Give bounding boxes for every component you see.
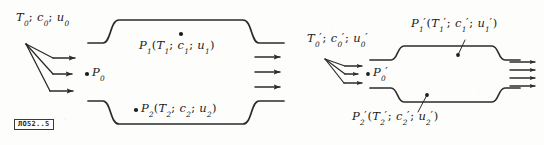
left-u2: u bbox=[199, 101, 207, 115]
right-lower-close-paren: ) bbox=[434, 109, 439, 123]
left-lower-state-label: P2(T2; c2; u2) bbox=[141, 103, 217, 115]
right-inlet-fan-spines bbox=[325, 59, 345, 83]
left-P2: P bbox=[141, 101, 149, 115]
left-P1-sub: 1 bbox=[147, 47, 152, 56]
left-inlet-point-label: P0 bbox=[92, 67, 105, 79]
right-inlet-u: u bbox=[353, 31, 361, 45]
left-u1: u bbox=[197, 38, 205, 52]
left-upper-close-paren: ) bbox=[210, 38, 215, 52]
right-u2-prime: ′ bbox=[430, 109, 433, 122]
right-lower-sep-1: ; bbox=[388, 109, 392, 123]
right-inlet-u-prime: ′ bbox=[365, 31, 368, 44]
right-duct-walls bbox=[370, 46, 520, 102]
left-inlet-T-sub: 0 bbox=[24, 19, 29, 28]
right-inlet-sep-1: ; bbox=[322, 31, 326, 45]
left-upper-state-label: P1(T1; c1; u1) bbox=[139, 40, 215, 52]
right-inlet-T: T bbox=[307, 31, 315, 45]
left-lower-close-paren: ) bbox=[212, 101, 217, 115]
right-P2-prime: ′ bbox=[364, 109, 367, 122]
right-duct-lower-wall bbox=[370, 88, 520, 102]
right-P0: P bbox=[373, 65, 381, 79]
left-c2-sub: 2 bbox=[186, 110, 191, 119]
right-outlet-arrows bbox=[510, 62, 535, 86]
right-c1-prime: ′ bbox=[466, 16, 469, 29]
right-lower-state-label: P2′(T2′; c2′; u2′) bbox=[352, 111, 438, 123]
right-leader-P1 bbox=[458, 40, 465, 55]
left-inlet-T: T bbox=[16, 10, 24, 24]
left-inlet-sep-1: ; bbox=[29, 10, 33, 24]
left-c1-sub: 1 bbox=[184, 47, 189, 56]
figure-caption-plate: ЛО52..5 bbox=[14, 119, 54, 130]
left-u1-sub: 1 bbox=[205, 47, 210, 56]
right-T1: T bbox=[431, 16, 439, 30]
right-u1-prime: ′ bbox=[489, 16, 492, 29]
left-lower-sep-2: ; bbox=[191, 101, 195, 115]
left-P1: P bbox=[139, 38, 147, 52]
right-u2: u bbox=[418, 109, 426, 123]
right-c2-prime: ′ bbox=[407, 109, 410, 122]
right-P0-prime: ′ bbox=[385, 65, 388, 78]
right-c1: c bbox=[455, 16, 462, 30]
right-point-P1-dot bbox=[456, 53, 460, 57]
right-upper-sep-1: ; bbox=[447, 16, 451, 30]
left-inlet-sep-2: ; bbox=[49, 10, 53, 24]
right-inlet-T-prime: ′ bbox=[319, 31, 322, 44]
left-outlet-arrows bbox=[255, 57, 280, 87]
left-inlet-fan-spines bbox=[26, 44, 53, 91]
right-duct-upper-wall bbox=[370, 46, 520, 60]
right-point-P0-dot bbox=[366, 72, 370, 76]
left-inlet-state-label: T0; c0; u0 bbox=[16, 12, 69, 24]
left-upper-sep-1: ; bbox=[169, 38, 173, 52]
figure-screenshot: T0; c0; u0 P0 P1(T1; c1; u1) P2(T2; c2; … bbox=[0, 0, 544, 145]
right-inlet-point-label: P0′ bbox=[373, 67, 389, 79]
left-point-P0-dot bbox=[85, 72, 89, 76]
right-lower-sep-2: ; bbox=[410, 109, 414, 123]
right-T2-prime: ′ bbox=[385, 109, 388, 122]
left-P2-sub: 2 bbox=[149, 110, 154, 119]
left-T1-sub: 1 bbox=[164, 47, 169, 56]
left-upper-sep-2: ; bbox=[189, 38, 193, 52]
right-T1-prime: ′ bbox=[444, 16, 447, 29]
right-T2: T bbox=[372, 109, 380, 123]
left-inlet-u-sub: 0 bbox=[64, 19, 69, 28]
left-P0-sub: 0 bbox=[100, 74, 105, 83]
left-inlet-c: c bbox=[37, 10, 44, 24]
right-inlet-state-label: T0′; c0′; u0′ bbox=[307, 33, 368, 45]
left-inlet-c-sub: 0 bbox=[44, 19, 49, 28]
left-point-P1-dot bbox=[179, 32, 183, 36]
right-upper-state-label: P1′(T1′; c1′; u1′) bbox=[411, 18, 497, 30]
right-upper-close-paren: ) bbox=[493, 16, 498, 30]
right-point-P2-dot bbox=[425, 93, 429, 97]
left-point-P2-dot bbox=[134, 108, 138, 112]
right-P2: P bbox=[352, 109, 360, 123]
right-c2: c bbox=[396, 109, 403, 123]
right-P1-prime: ′ bbox=[423, 16, 426, 29]
left-inlet-arrows bbox=[26, 44, 75, 91]
left-T2-sub: 2 bbox=[166, 110, 171, 119]
left-P0: P bbox=[92, 65, 100, 79]
right-inlet-arrows bbox=[325, 59, 362, 83]
left-u2-sub: 2 bbox=[207, 110, 212, 119]
right-P1: P bbox=[411, 16, 419, 30]
left-lower-sep-1: ; bbox=[171, 101, 175, 115]
right-u1: u bbox=[477, 16, 485, 30]
right-inlet-sep-2: ; bbox=[345, 31, 349, 45]
right-upper-sep-2: ; bbox=[469, 16, 473, 30]
